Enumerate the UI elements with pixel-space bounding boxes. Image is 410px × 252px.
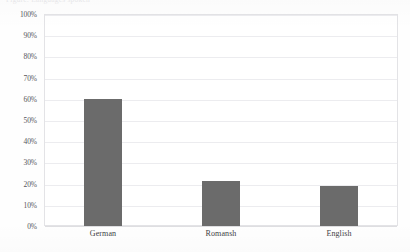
bar-slot (202, 14, 240, 226)
y-axis-tick-label: 10% (24, 200, 37, 209)
y-axis: 100%90%80%70%60%50%40%30%20%10%0% (0, 14, 40, 226)
bar-slot (84, 14, 122, 226)
y-axis-tick-label: 0% (27, 222, 37, 231)
bar-romansh[interactable] (202, 181, 240, 226)
y-axis-tick-label: 70% (24, 73, 37, 82)
clipped-caption-text: Figure: Languages spoken (6, 0, 406, 4)
y-axis-tick-label: 60% (24, 94, 37, 103)
y-axis-tick-label: 20% (24, 179, 37, 188)
y-axis-tick-label: 40% (24, 137, 37, 146)
y-axis-tick-label: 80% (24, 52, 37, 61)
x-axis-tick-label: German (90, 229, 116, 238)
y-axis-tick-label: 100% (20, 10, 37, 19)
x-axis-tick-label: Romansh (206, 229, 237, 238)
bar-slot (320, 14, 358, 226)
y-axis-tick-label: 90% (24, 31, 37, 40)
x-axis: GermanRomanshEnglish (44, 229, 398, 247)
gridline (45, 226, 397, 227)
bar-english[interactable] (320, 186, 358, 226)
y-axis-tick-label: 30% (24, 158, 37, 167)
x-axis-tick-label: English (326, 229, 351, 238)
bar-chart: Figure: Languages spoken 100%90%80%70%60… (0, 0, 410, 252)
bar-german[interactable] (84, 99, 122, 226)
y-axis-tick-label: 50% (24, 116, 37, 125)
bars-layer (44, 14, 398, 226)
